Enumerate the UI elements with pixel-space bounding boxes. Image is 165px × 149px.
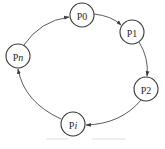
process-cycle-diagram: P0 P1 P2 Pi Pn [0, 0, 165, 149]
node-label: P2 [141, 84, 152, 95]
node-p1: P1 [120, 20, 144, 44]
node-p2: P2 [134, 77, 158, 101]
edge-pn-p0 [24, 17, 69, 45]
node-pi: Pi [61, 112, 85, 136]
figure-caption-illegible [40, 137, 130, 142]
node-label: Pn [13, 51, 24, 62]
caption-fragment [46, 138, 68, 140]
node-label: Pi [69, 119, 78, 130]
edge-pi-pn [18, 69, 61, 119]
node-pn: Pn [6, 44, 30, 68]
node-p0: P0 [70, 3, 94, 27]
node-label: P0 [77, 10, 88, 21]
node-label: P1 [127, 27, 138, 38]
edge-p1-p2 [139, 42, 147, 76]
edge-p0-p1 [94, 14, 121, 25]
caption-fragment [92, 138, 126, 140]
edge-p2-pi [86, 100, 141, 125]
